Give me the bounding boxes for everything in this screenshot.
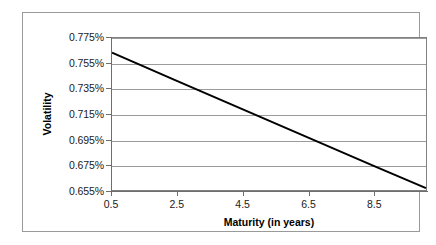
x-tick-label: 4.5 bbox=[235, 198, 250, 210]
y-tick-label: 0.735% bbox=[69, 82, 104, 94]
x-tick-mark bbox=[111, 191, 112, 196]
chart-outer-frame: 0.775%0.755%0.735%0.715%0.695%0.675%0.65… bbox=[22, 12, 420, 232]
x-tick-label: 2.5 bbox=[170, 198, 185, 210]
plot-area bbox=[111, 37, 427, 191]
x-tick-label: 8.5 bbox=[367, 198, 382, 210]
y-tick-label: 0.715% bbox=[69, 108, 104, 120]
y-tick-label: 0.755% bbox=[69, 57, 104, 69]
y-tick-mark bbox=[106, 88, 111, 89]
y-tick-mark bbox=[106, 37, 111, 38]
x-tick-label: 0.5 bbox=[104, 198, 119, 210]
y-axis-title: Volatility bbox=[41, 93, 53, 136]
series-line-volatility bbox=[112, 38, 426, 190]
y-tick-mark bbox=[106, 165, 111, 166]
x-axis-line bbox=[111, 191, 428, 192]
x-tick-mark bbox=[309, 191, 310, 196]
y-axis-line bbox=[111, 37, 112, 192]
x-axis-title: Maturity (in years) bbox=[111, 216, 427, 228]
y-tick-label: 0.675% bbox=[69, 159, 104, 171]
x-tick-mark bbox=[177, 191, 178, 196]
y-tick-mark bbox=[106, 114, 111, 115]
y-tick-mark bbox=[106, 63, 111, 64]
chart-figure: 0.775%0.755%0.735%0.715%0.695%0.675%0.65… bbox=[0, 0, 436, 245]
y-tick-label: 0.655% bbox=[69, 185, 104, 197]
y-tick-label: 0.775% bbox=[69, 31, 104, 43]
x-tick-mark bbox=[374, 191, 375, 196]
x-tick-mark bbox=[243, 191, 244, 196]
y-axis-tick-labels: 0.775%0.755%0.735%0.715%0.695%0.675%0.65… bbox=[49, 13, 104, 245]
y-tick-label: 0.695% bbox=[69, 134, 104, 146]
y-tick-mark bbox=[106, 140, 111, 141]
x-tick-label: 6.5 bbox=[301, 198, 316, 210]
